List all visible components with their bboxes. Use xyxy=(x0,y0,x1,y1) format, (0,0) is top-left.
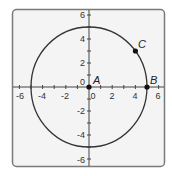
svg-text:2: 2 xyxy=(109,91,114,101)
svg-text:-4: -4 xyxy=(38,91,46,101)
svg-text:6: 6 xyxy=(80,10,85,20)
svg-text:0: 0 xyxy=(80,77,85,87)
svg-text:-6: -6 xyxy=(16,91,24,101)
svg-text:6: 6 xyxy=(155,91,160,101)
svg-text:2: 2 xyxy=(80,58,85,68)
coordinate-plane: -6 -4 -2 0 2 4 6 6 4 2 0 -2 -4 -6 A B C xyxy=(0,0,172,176)
point-b xyxy=(144,84,149,89)
svg-text:4: 4 xyxy=(80,34,85,44)
point-a xyxy=(86,84,91,89)
svg-text:-2: -2 xyxy=(61,91,69,101)
svg-text:0: 0 xyxy=(90,91,95,101)
point-b-label: B xyxy=(150,74,157,86)
svg-text:-6: -6 xyxy=(77,155,85,165)
point-a-label: A xyxy=(92,74,100,86)
point-c-label: C xyxy=(138,38,146,50)
svg-text:4: 4 xyxy=(132,91,137,101)
svg-text:-2: -2 xyxy=(77,106,85,116)
svg-text:-4: -4 xyxy=(77,130,85,140)
